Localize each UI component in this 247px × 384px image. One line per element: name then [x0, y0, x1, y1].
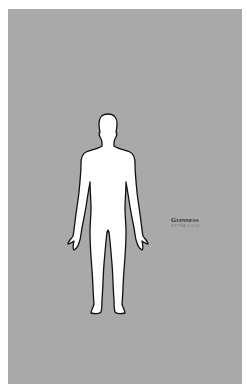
poster-background: Guinness EXTRA COLD: [8, 9, 242, 384]
brand-subtitle: EXTRA COLD: [171, 224, 200, 229]
human-figure-icon: [64, 112, 152, 318]
brand-name: Guinness: [171, 216, 200, 224]
brand-logo: Guinness EXTRA COLD: [171, 216, 200, 229]
